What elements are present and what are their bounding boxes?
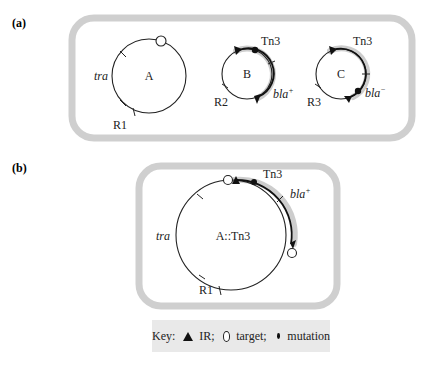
r2-label: R2 — [214, 95, 228, 109]
tick-mark — [199, 275, 205, 279]
plasmid-b-name: B — [243, 67, 251, 81]
plasmid-a-name: A — [145, 69, 154, 83]
target-icon — [156, 36, 166, 46]
tra-label: tra — [94, 69, 108, 83]
tn3-label-b-panel: Tn3 — [263, 167, 282, 181]
plasmid-a: A tra R1 — [94, 36, 186, 132]
r3-label: R3 — [307, 95, 321, 109]
tick-mark — [133, 108, 135, 116]
ir-triangle-icon — [183, 332, 193, 341]
tick-mark — [222, 84, 228, 88]
tick-mark — [120, 51, 126, 57]
panel-label-b: (b) — [12, 161, 27, 175]
plasmid-c-name: C — [337, 67, 345, 81]
mutation-dot-icon — [277, 333, 281, 339]
panel-label-a: (a) — [12, 16, 26, 30]
mutation-dot-icon — [251, 179, 257, 185]
r1-label-b: R1 — [199, 283, 213, 297]
target-icon — [224, 176, 233, 185]
tn3-label-b: Tn3 — [261, 34, 280, 48]
bla-plus-label: bla+ — [273, 86, 294, 101]
tra-label-b: tra — [156, 229, 170, 243]
tick-mark — [219, 286, 221, 295]
key-ir-label: IR; — [199, 329, 214, 344]
bla-plus-label-b: bla+ — [290, 186, 311, 201]
key-prefix: Key: — [152, 329, 175, 344]
ir-triangle-icon — [344, 96, 352, 103]
tick-mark — [197, 194, 203, 199]
key-mutation-label: mutation — [287, 329, 330, 344]
key-legend: Key: IR; target; mutation — [152, 320, 330, 352]
mutation-dot-icon — [252, 47, 258, 53]
plasmid-c: C Tn3 bla− R3 — [307, 34, 386, 109]
tn3-label-c: Tn3 — [353, 34, 372, 48]
diagram-canvas: (a) (b) A tra R1 B Tn3 bla+ R2 — [0, 0, 431, 369]
plasmid-b: B Tn3 bla+ R2 — [214, 34, 294, 109]
r1-label: R1 — [113, 118, 127, 132]
bla-minus-label: bla− — [365, 85, 386, 100]
plasmid-a-tn3: A::Tn3 Tn3 bla+ tra R1 — [156, 167, 311, 297]
key-target-label: target; — [236, 329, 266, 344]
target-circle-icon — [223, 331, 231, 342]
tick-mark — [120, 100, 126, 106]
plasmid-a-tn3-name: A::Tn3 — [216, 229, 251, 243]
mutation-dot-icon — [355, 88, 361, 94]
target-icon — [288, 249, 297, 258]
